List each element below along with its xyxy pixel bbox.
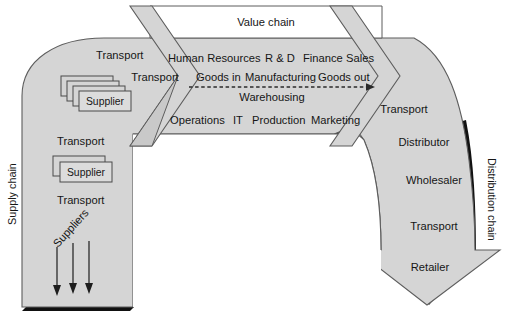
vc-flow-item-0: Goods in (196, 71, 241, 83)
vc-row-bottom-item-0: Operations (170, 114, 225, 126)
vc-row-bottom-item-2: Production (252, 114, 306, 126)
vc-flow-sub-label: Warehousing (239, 91, 305, 103)
left-arm-transport-label-top: Transport (96, 49, 143, 61)
vc-row-bottom-item-1: IT (233, 114, 243, 126)
right-arm-item-4: Retailer (411, 261, 450, 273)
vc-flow-item-1: Manufacturing (245, 71, 316, 83)
left-arm-transport-1: Transport (57, 135, 105, 147)
left-chevron-label: Transport (131, 71, 179, 83)
supplier-stack-2: Supplier (53, 156, 112, 182)
distribution-chain-side-label: Distribution chain (486, 158, 498, 241)
vc-row-bottom-item-3: Marketing (311, 114, 360, 126)
value-chain-band-label: Value chain (237, 16, 295, 28)
right-arm-item-0: Transport (380, 103, 428, 115)
vc-row-top-item-1: R & D (265, 52, 295, 64)
right-arm-item-3: Transport (410, 220, 458, 232)
diagram-canvas: Value chain Human Resources R & D Financ… (0, 0, 520, 319)
supply-chain-side-label: Supply chain (6, 163, 18, 225)
vc-flow-item-2: Goods out (318, 71, 371, 83)
supplier-stack-2-label: Supplier (67, 167, 106, 178)
right-arm-item-1: Distributor (399, 136, 450, 148)
vc-row-top-item-0: Human Resources (168, 52, 261, 64)
left-arm-transport-2: Transport (57, 194, 105, 206)
right-arm-item-2: Wholesaler (406, 174, 462, 186)
vc-row-top-item-2: Finance (303, 52, 343, 64)
vc-row-top-item-3: Sales (346, 52, 374, 64)
value-chain-diagram: Value chain Human Resources R & D Financ… (0, 0, 520, 319)
supplier-stack-1-label: Supplier (86, 96, 125, 107)
